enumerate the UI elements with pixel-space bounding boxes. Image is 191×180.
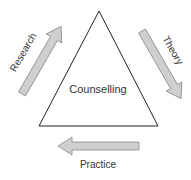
triangle-diagram: Counselling Research Theory Practice [0,0,191,180]
center-label: Counselling [69,83,126,95]
practice-arrow [58,137,139,155]
practice-label: Practice [80,159,117,170]
